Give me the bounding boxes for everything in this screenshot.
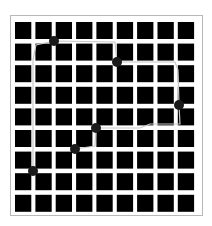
grid-square — [96, 173, 112, 190]
grid-square — [35, 22, 51, 39]
grid-square — [35, 130, 51, 147]
grid-square — [56, 44, 72, 61]
grid-square — [117, 65, 133, 82]
grid-square — [15, 44, 31, 61]
grid-square — [96, 22, 112, 39]
grid-square — [117, 173, 133, 190]
grid-square — [96, 130, 112, 147]
grid-square — [56, 173, 72, 190]
grid-square — [158, 44, 174, 61]
grid-square — [56, 22, 72, 39]
grid-square — [158, 152, 174, 169]
grid-square — [35, 152, 51, 169]
grid-square — [96, 195, 112, 212]
grid-square — [76, 87, 92, 104]
grid-square — [137, 152, 153, 169]
grid-square — [35, 87, 51, 104]
grid-square — [137, 130, 153, 147]
grid-square — [76, 44, 92, 61]
grid-square — [137, 173, 153, 190]
grid-square — [137, 87, 153, 104]
grid-square — [56, 87, 72, 104]
grid-square — [15, 195, 31, 212]
intersection-dot — [28, 166, 38, 176]
grid-square — [178, 65, 194, 82]
grid-square — [15, 173, 31, 190]
grid-square — [137, 65, 153, 82]
grid-square — [158, 195, 174, 212]
grid-square — [76, 22, 92, 39]
grid-square — [96, 65, 112, 82]
intersection-dot — [174, 100, 184, 110]
grid-square — [158, 108, 174, 125]
grid-square — [15, 22, 31, 39]
grid-square — [117, 108, 133, 125]
grid-square — [35, 195, 51, 212]
black-squares — [15, 22, 194, 212]
intersection-dot — [70, 144, 80, 154]
grid-square — [158, 22, 174, 39]
grid-square — [76, 108, 92, 125]
grid-square — [96, 87, 112, 104]
grid-square — [76, 173, 92, 190]
grid-square — [35, 108, 51, 125]
intersection-dot — [49, 36, 59, 46]
grid-square — [158, 65, 174, 82]
grid-square — [158, 130, 174, 147]
grid-canvas — [0, 0, 212, 226]
grid-square — [96, 108, 112, 125]
grid-square — [178, 152, 194, 169]
grid-square — [15, 152, 31, 169]
grid-square — [76, 130, 92, 147]
grid-square — [158, 173, 174, 190]
grid-square — [56, 65, 72, 82]
grid-square — [137, 22, 153, 39]
grid-square — [117, 87, 133, 104]
grid-square — [117, 152, 133, 169]
grid-square — [76, 195, 92, 212]
grid-square — [35, 65, 51, 82]
grid-square — [15, 65, 31, 82]
grid-square — [56, 195, 72, 212]
grid-square — [35, 173, 51, 190]
grid-square — [178, 195, 194, 212]
intersection-dot — [91, 123, 101, 133]
grid-square — [96, 44, 112, 61]
grid-square — [76, 152, 92, 169]
grid-square — [117, 130, 133, 147]
grid-square — [15, 87, 31, 104]
grid-square — [56, 108, 72, 125]
grid-square — [178, 22, 194, 39]
grid-square — [178, 130, 194, 147]
grid-square — [35, 44, 51, 61]
grid-square — [117, 22, 133, 39]
grid-square — [15, 108, 31, 125]
grid-square — [137, 195, 153, 212]
grid-square — [56, 130, 72, 147]
grid-square — [137, 44, 153, 61]
grid-square — [178, 173, 194, 190]
grid-square — [56, 152, 72, 169]
grid-square — [137, 108, 153, 125]
grid-square — [178, 44, 194, 61]
grid-square — [158, 87, 174, 104]
grid-square — [117, 195, 133, 212]
intersection-dot — [112, 57, 122, 67]
grid-square — [15, 130, 31, 147]
hermann-grid-illusion — [0, 0, 212, 226]
grid-square — [76, 65, 92, 82]
grid-square — [96, 152, 112, 169]
